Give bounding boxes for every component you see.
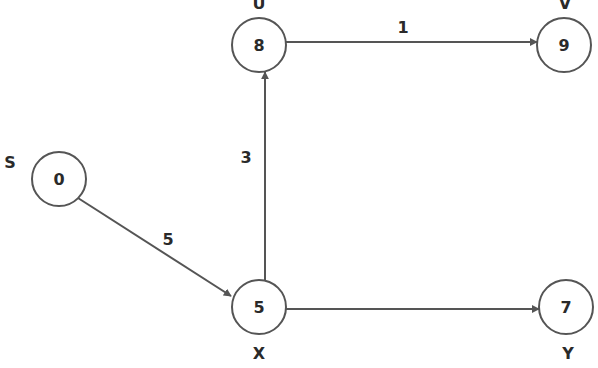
node-y[interactable]: 7 Y [539, 280, 593, 363]
node-s[interactable]: 0 S [4, 152, 86, 206]
graph-canvas: 5 3 1 0 S 8 U 9 V 5 X 7 Y [0, 0, 598, 368]
node-name: V [559, 0, 572, 13]
node-value: 8 [253, 36, 264, 55]
node-v[interactable]: 9 V [537, 0, 591, 72]
node-name: X [253, 344, 266, 363]
edge-s-x [78, 198, 231, 296]
node-x[interactable]: 5 X [232, 280, 286, 363]
node-u[interactable]: 8 U [232, 0, 286, 72]
node-value: 7 [560, 298, 571, 317]
node-value: 0 [53, 170, 64, 189]
edge-weight-x-u: 3 [240, 148, 251, 167]
node-value: 9 [558, 36, 569, 55]
edge-weight-u-v: 1 [397, 18, 408, 37]
edge-weight-s-x: 5 [162, 230, 173, 249]
node-name: U [253, 0, 266, 13]
node-name: Y [561, 344, 574, 363]
node-name: S [4, 153, 16, 172]
node-value: 5 [253, 298, 264, 317]
edges [78, 42, 539, 309]
